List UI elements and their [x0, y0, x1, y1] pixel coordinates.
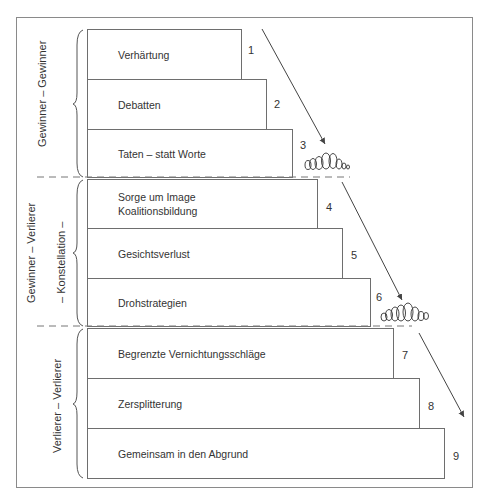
arrow-2	[342, 182, 402, 300]
diagram-graphics	[0, 0, 488, 502]
arrow-3	[419, 333, 464, 417]
squiggle-2	[381, 303, 429, 321]
squiggle-1	[305, 153, 350, 170]
brace-2	[73, 180, 83, 326]
arrow-1	[262, 29, 325, 144]
brace-1	[73, 30, 83, 177]
brace-3	[73, 329, 83, 478]
